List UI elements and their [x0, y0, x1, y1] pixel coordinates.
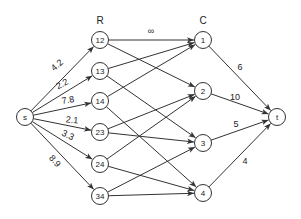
node-c4: 4 — [195, 185, 212, 202]
node-r12: 12 — [92, 32, 109, 49]
node-label: 4 — [201, 189, 206, 198]
edge-23-to-3 — [108, 133, 194, 142]
edge-s-to-24 — [32, 122, 92, 160]
node-r24: 24 — [92, 156, 109, 173]
column-label-c: C — [199, 15, 206, 26]
edge-14-to-4 — [106, 107, 196, 187]
edge-13-to-3 — [107, 76, 196, 138]
node-label: s — [23, 113, 27, 122]
column-labels-layer: R C — [96, 15, 206, 26]
node-label: 3 — [201, 139, 206, 148]
node-label: 1 — [201, 36, 206, 45]
edge-capacity-label: 10 — [230, 92, 240, 102]
edge-capacity-label: 7.8 — [61, 94, 75, 106]
node-label: 2 — [201, 87, 206, 96]
edge-capacity-label: 4 — [242, 156, 247, 166]
node-r23: 23 — [92, 124, 109, 141]
node-c3: 3 — [195, 135, 212, 152]
edge-13-to-1 — [108, 43, 194, 69]
edge-capacity-label: 8.9 — [47, 153, 63, 169]
edge-labels-layer: 4.22.27.82.13.38.9∞61054 — [47, 26, 247, 169]
edge-capacity-label: 2.2 — [54, 77, 70, 92]
column-label-r: R — [96, 15, 103, 26]
node-label: 13 — [96, 67, 105, 76]
node-label: 14 — [96, 97, 105, 106]
edge-4-to-t — [209, 123, 271, 186]
edge-capacity-label: 6 — [237, 62, 242, 72]
edge-23-to-2 — [108, 94, 195, 129]
node-r34: 34 — [92, 188, 109, 205]
edge-14-to-1 — [107, 45, 195, 97]
edge-capacity-label: 4.2 — [49, 57, 65, 73]
node-label: 23 — [96, 128, 105, 137]
node-r13: 13 — [92, 63, 109, 80]
edge-capacity-label: 2.1 — [65, 114, 78, 125]
edge-12-to-2 — [108, 44, 195, 87]
edge-34-to-4 — [108, 193, 194, 195]
flow-network-diagram: 4.22.27.82.13.38.9∞61054 s12131423243412… — [0, 0, 301, 219]
node-r14: 14 — [92, 93, 109, 110]
node-s: s — [17, 109, 34, 126]
edge-24-to-2 — [107, 96, 196, 159]
node-t: t — [269, 109, 286, 126]
node-label: 24 — [96, 160, 105, 169]
node-c2: 2 — [195, 83, 212, 100]
node-label: 12 — [96, 36, 105, 45]
node-c1: 1 — [195, 32, 212, 49]
edge-s-to-23 — [33, 119, 91, 131]
node-label: 34 — [96, 192, 105, 201]
edge-capacity-label: ∞ — [148, 26, 154, 36]
edge-capacity-label: 5 — [233, 119, 238, 129]
edge-3-to-t — [211, 120, 268, 140]
